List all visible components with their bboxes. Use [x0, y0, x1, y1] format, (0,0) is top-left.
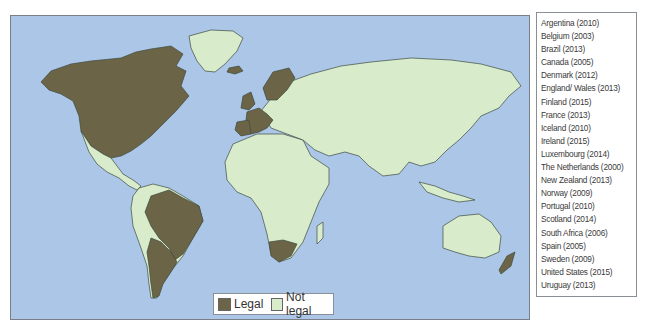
country-entry: Brazil (2013)	[541, 42, 623, 55]
country-entry: Denmark (2012)	[541, 68, 623, 81]
country-entry: Norway (2009)	[541, 186, 623, 199]
country-entry: Scotland (2014)	[541, 212, 623, 225]
country-entry: United States (2015)	[541, 265, 623, 278]
region-australia	[443, 214, 501, 258]
country-entry: France (2013)	[541, 108, 623, 121]
country-entry: South Africa (2006)	[541, 226, 623, 239]
legend-item-legal: Legal	[218, 297, 263, 311]
country-entry: New Zealand (2013)	[541, 173, 623, 186]
region-iceland	[227, 66, 243, 74]
region-greenland	[189, 30, 243, 72]
region-new-zealand	[499, 252, 515, 274]
country-entry: Portugal (2010)	[541, 199, 623, 212]
not-legal-swatch	[271, 298, 283, 311]
country-entry: Luxembourg (2014)	[541, 147, 623, 160]
country-entry: Sweden (2009)	[541, 252, 623, 265]
region-iberia	[235, 120, 251, 136]
map-svg	[11, 16, 530, 320]
country-entry: Uruguay (2013)	[541, 278, 623, 291]
map-legend: Legal Not legal	[213, 293, 334, 315]
country-entry: Finland (2015)	[541, 95, 623, 108]
country-entry: Ireland (2015)	[541, 134, 623, 147]
legend-label-legal: Legal	[234, 297, 263, 311]
region-south-africa	[269, 240, 297, 262]
legal-swatch	[218, 298, 231, 311]
country-entry: Belgium (2003)	[541, 29, 623, 42]
legend-item-not-legal: Not legal	[271, 290, 328, 318]
country-entry: Iceland (2010)	[541, 121, 623, 134]
legal-countries-list: Argentina (2010) Belgium (2003) Brazil (…	[536, 12, 637, 297]
country-entry: Spain (2005)	[541, 239, 623, 252]
region-southeast-asia	[419, 182, 475, 202]
country-entry: Argentina (2010)	[541, 16, 623, 29]
world-map: Legal Not legal	[10, 15, 530, 320]
country-entry: England/ Wales (2013)	[541, 81, 623, 94]
region-madagascar	[317, 222, 323, 244]
country-entry: Canada (2005)	[541, 55, 623, 68]
region-uk-ireland	[241, 92, 255, 110]
region-north-america-legal	[41, 46, 189, 158]
legend-label-not-legal: Not legal	[286, 290, 328, 318]
country-entry: The Netherlands (2000)	[541, 160, 623, 173]
